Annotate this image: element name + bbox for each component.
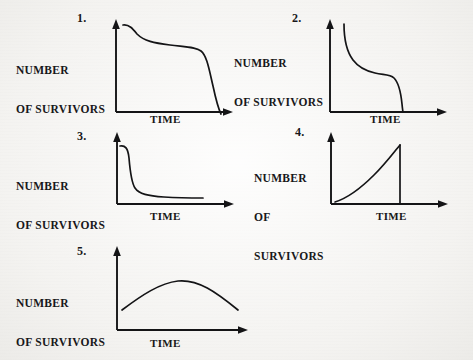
panel-4-y-axis-label-line-1: NUMBER bbox=[254, 172, 324, 185]
panel-3-y-axis-label-line-1: NUMBER bbox=[16, 180, 105, 193]
panel-2-x-axis-arrowhead bbox=[437, 108, 447, 116]
panel-1-number: 1. bbox=[77, 12, 87, 25]
panel-2-y-axis-arrowhead bbox=[326, 19, 334, 29]
panel-2-y-axis-label-line-2: OF SURVIVORS bbox=[234, 96, 323, 109]
panel-1-y-axis-label-line-2: OF SURVIVORS bbox=[16, 103, 105, 116]
panel-3-number: 3. bbox=[77, 130, 87, 143]
panel-5-survivorship-curve bbox=[122, 281, 238, 310]
survivorship-curve-figure: 1. NUMBER OF SURVIVORS TIME 2. NUMBER OF… bbox=[0, 0, 473, 360]
panel-3-survivorship-curve bbox=[120, 146, 203, 198]
panel-4-y-axis-label-line-2: OF bbox=[254, 211, 324, 224]
panel-5-y-axis-arrowhead bbox=[113, 246, 121, 256]
panel-1-y-axis-label-line-1: NUMBER bbox=[16, 64, 105, 77]
panel-5-number: 5. bbox=[77, 245, 87, 258]
panel-2-y-axis-label-line-1: NUMBER bbox=[234, 57, 323, 70]
panel-5-x-axis-arrowhead bbox=[238, 326, 248, 334]
panel-5-y-axis-label-line-1: NUMBER bbox=[16, 297, 105, 310]
panel-3-y-axis-label-line-2: OF SURVIVORS bbox=[16, 219, 105, 232]
panel-4-y-axis-arrowhead bbox=[327, 132, 335, 142]
panel-1-y-axis-arrowhead bbox=[112, 19, 120, 29]
panel-2-y-axis-label: NUMBER OF SURVIVORS bbox=[234, 31, 323, 135]
panel-2-plot bbox=[322, 14, 454, 120]
panel-5-y-axis-label-line-2: OF SURVIVORS bbox=[16, 336, 105, 349]
panel-5: 5. NUMBER OF SURVIVORS TIME bbox=[0, 236, 300, 360]
panel-4: 4. NUMBER OF SURVIVORS TIME bbox=[228, 122, 473, 226]
panel-4-survivorship-curve bbox=[335, 145, 400, 202]
panel-5-plot bbox=[108, 242, 258, 342]
panel-1-plot bbox=[108, 14, 240, 120]
panel-2-survivorship-curve bbox=[344, 24, 403, 112]
panel-4-plot bbox=[322, 128, 454, 212]
panel-1-survivorship-curve bbox=[123, 25, 221, 114]
panel-5-y-axis-label: NUMBER OF SURVIVORS bbox=[16, 271, 105, 360]
panel-4-x-axis-arrowhead bbox=[438, 200, 448, 208]
panel-4-number: 4. bbox=[295, 126, 305, 139]
panel-2: 2. NUMBER OF SURVIVORS TIME bbox=[228, 0, 473, 132]
panel-3: 3. NUMBER OF SURVIVORS TIME bbox=[0, 122, 240, 226]
panel-2-number: 2. bbox=[292, 12, 302, 25]
panel-3-plot bbox=[108, 128, 240, 212]
panel-1: 1. NUMBER OF SURVIVORS TIME bbox=[0, 0, 240, 132]
panel-3-y-axis-arrowhead bbox=[113, 132, 121, 142]
